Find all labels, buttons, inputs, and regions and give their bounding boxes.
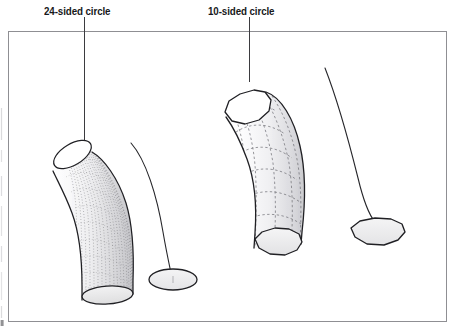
profile-10-sided — [351, 218, 405, 245]
profile-24-sided — [149, 269, 197, 290]
scan-artifact — [1, 108, 4, 326]
figure-canvas — [0, 0, 460, 334]
tube-10-cap-bottom — [255, 228, 302, 255]
path-curve-left-line — [131, 143, 172, 278]
tube-10-sided — [225, 90, 304, 255]
callout-label-24-sided: 24-sided circle — [44, 6, 110, 17]
path-curve-right-line — [325, 68, 375, 222]
path-curve-left — [131, 143, 172, 278]
callout-label-10-sided: 10-sided circle — [208, 6, 274, 17]
callout-leaders — [85, 17, 250, 148]
tube-24-body — [53, 150, 133, 300]
tube-24-sided — [49, 135, 133, 306]
profile-10-decagon — [351, 218, 405, 245]
figure-root: 24-sided circle 10-sided circle — [0, 0, 460, 334]
path-curve-right — [325, 68, 375, 222]
